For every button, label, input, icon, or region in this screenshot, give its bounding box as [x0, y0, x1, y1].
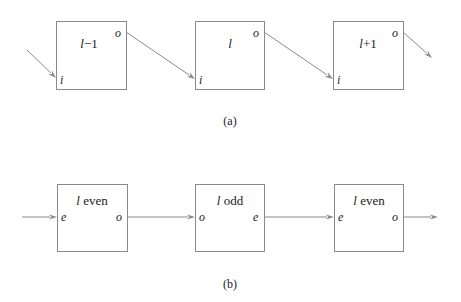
port-label-o: o — [392, 26, 398, 40]
edge-a1-o-to-a2-i — [126, 32, 195, 79]
port-label-o: o — [392, 210, 398, 224]
block-b3: l eveneo — [335, 185, 404, 252]
diagram-b: l eveneol oddoel eveneo(b) — [22, 185, 438, 292]
port-label-o: o — [199, 210, 205, 224]
port-label-e: e — [61, 210, 67, 224]
port-label-e: e — [338, 210, 344, 224]
block-title: l even — [353, 193, 385, 208]
edge-b3-o-to-external — [403, 214, 438, 219]
block-title: l even — [76, 193, 108, 208]
port-label-o: o — [116, 210, 122, 224]
edge-a2-o-to-a3-i — [264, 32, 333, 79]
block-b1: l eveneo — [58, 185, 128, 252]
block-title: l — [228, 36, 232, 51]
port-label-e: e — [253, 210, 259, 224]
port-label-i: i — [199, 73, 202, 87]
port-label-o: o — [115, 26, 121, 40]
edge-b2-e-to-b3-e — [264, 214, 334, 219]
block-title: l+1 — [359, 36, 376, 51]
edge-a3-o-to-external — [403, 32, 432, 58]
diagram-a: l−1oiloil+1oi(a) — [27, 22, 432, 129]
port-label-o: o — [253, 26, 259, 40]
arrowhead-icon — [49, 214, 57, 219]
block-title: l−1 — [80, 36, 97, 51]
block-a2: loi — [196, 22, 265, 90]
caption-diagram_a: (a) — [223, 114, 236, 128]
caption-diagram_b: (b) — [223, 277, 237, 291]
diagram-canvas: l−1oiloil+1oi(a) l eveneol oddoel eveneo… — [0, 0, 461, 302]
arrowhead-icon — [326, 214, 334, 219]
edge-b1-o-to-b2-o — [127, 214, 195, 219]
block-a1: l−1oi — [57, 22, 127, 90]
arrowhead-icon — [430, 214, 438, 219]
block-title: l odd — [217, 193, 244, 208]
edge-external-to-b1-e — [22, 214, 57, 219]
edge-external-to-a1-i — [27, 50, 56, 78]
arrowhead-icon — [325, 72, 333, 79]
arrowhead-icon — [187, 72, 195, 79]
block-b2: l oddoe — [196, 185, 265, 252]
block-a3: l+1oi — [334, 22, 404, 90]
port-label-i: i — [337, 73, 340, 87]
arrowhead-icon — [187, 214, 195, 219]
port-label-i: i — [60, 73, 63, 87]
